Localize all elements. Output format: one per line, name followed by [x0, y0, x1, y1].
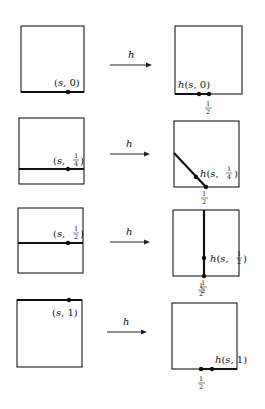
image-label-4: h(s, 1) — [215, 354, 247, 365]
row-2: (s, 1 4 ) h h(s, 1 4 ) 1 2 — [19, 118, 239, 206]
image-label-3: h(s, 1 2 ) — [210, 250, 247, 266]
domain-point-3 — [66, 241, 70, 245]
tick-label-half-1: 1 2 — [205, 100, 212, 116]
image-point-2 — [194, 175, 198, 179]
svg-text:): ) — [243, 253, 247, 264]
image-point-4 — [199, 367, 203, 371]
svg-text:2: 2 — [74, 233, 78, 241]
svg-text:): ) — [234, 168, 238, 179]
domain-label-1: (s, 0) — [54, 77, 80, 88]
map-arrow-3: h — [110, 226, 150, 245]
image-point-3 — [202, 256, 206, 260]
row-3: (s, 1 2 ) h h(s, 1 2 ) 1 2 — [18, 208, 247, 295]
domain-label-2: (s, 1 4 ) — [53, 152, 84, 168]
image-label-1: h(s, 0) — [178, 79, 210, 90]
row-1: (s, 0) h h(s, 0) 1 2 — [21, 26, 242, 116]
svg-text:): ) — [80, 155, 84, 166]
svg-text:4: 4 — [227, 173, 231, 181]
image-endpoint-2 — [204, 185, 208, 189]
svg-text:1: 1 — [199, 375, 203, 383]
svg-text:2: 2 — [237, 258, 241, 266]
svg-text:2: 2 — [206, 108, 210, 116]
domain-point-4 — [67, 298, 71, 302]
map-arrow-1: h — [110, 49, 152, 68]
homotopy-diagram: (s, 0) h h(s, 0) 1 2 (s, 1 4 ) — [0, 0, 265, 409]
image-endpoint-3 — [202, 274, 206, 278]
image-label-2: h(s, 1 4 ) — [200, 165, 238, 181]
image-midpoint-1 — [207, 92, 211, 96]
domain-point-2 — [66, 167, 70, 171]
domain-label-4: (s, 1) — [52, 307, 78, 318]
svg-text:1: 1 — [237, 250, 241, 258]
svg-text:1: 1 — [74, 225, 78, 233]
map-label-1: h — [128, 49, 134, 60]
map-arrow-2: h — [110, 138, 150, 157]
tick-label-half-2: 1 2 — [201, 190, 208, 206]
row-4: (s, 1) h h(s, 1) 1 2 1 2 — [17, 282, 247, 391]
svg-text:2: 2 — [199, 290, 203, 298]
tick-label-half-bottom-4: 1 2 — [198, 375, 205, 391]
svg-text:1: 1 — [199, 282, 203, 290]
image-point-1 — [197, 92, 201, 96]
svg-text:1: 1 — [227, 165, 231, 173]
svg-text:2: 2 — [199, 383, 203, 391]
image-midpoint-4 — [210, 367, 214, 371]
svg-text:h(s,: h(s, — [210, 253, 229, 264]
svg-text:(s,: (s, — [53, 228, 65, 239]
map-arrow-4: h — [107, 316, 147, 335]
map-label-3: h — [126, 226, 132, 237]
domain-label-3: (s, 1 2 ) — [53, 225, 84, 241]
svg-text:): ) — [80, 228, 84, 239]
map-label-4: h — [123, 316, 129, 327]
svg-text:1: 1 — [206, 100, 210, 108]
domain-square-2 — [19, 118, 84, 184]
svg-text:h(s,: h(s, — [200, 168, 219, 179]
svg-text:1: 1 — [74, 152, 78, 160]
domain-point-1 — [66, 90, 70, 94]
image-square-3 — [173, 210, 239, 276]
map-label-2: h — [126, 138, 132, 149]
svg-text:4: 4 — [74, 160, 78, 168]
svg-text:(s,: (s, — [53, 155, 65, 166]
svg-text:1: 1 — [202, 190, 206, 198]
svg-text:2: 2 — [202, 198, 206, 206]
